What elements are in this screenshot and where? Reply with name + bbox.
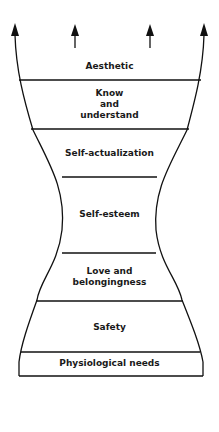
- arrow-heads: [11, 23, 208, 36]
- level-know-line1: Know: [0, 88, 219, 99]
- level-aesthetic: Aesthetic: [0, 61, 219, 72]
- level-safety: Safety: [0, 322, 219, 333]
- level-know-line3: understand: [0, 110, 219, 121]
- level-love-line2: belongingness: [0, 277, 219, 288]
- level-physiological-needs: Physiological needs: [0, 358, 219, 369]
- arrow-up-icon: [146, 24, 154, 36]
- arrow-up-icon: [11, 23, 19, 36]
- arrow-up-icon: [200, 23, 208, 36]
- level-self-esteem: Self-esteem: [0, 209, 219, 220]
- level-love-line1: Love and: [0, 266, 219, 277]
- arrow-up-icon: [71, 24, 79, 36]
- level-self-actualization: Self-actualization: [0, 148, 219, 159]
- level-know-line2: and: [0, 99, 219, 110]
